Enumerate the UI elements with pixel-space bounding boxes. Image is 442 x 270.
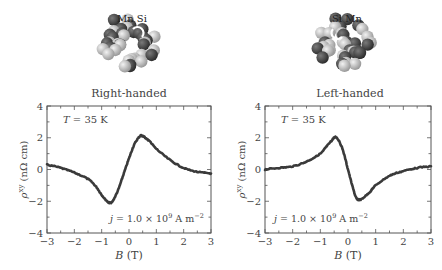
x-tick-label: 1 xyxy=(372,236,378,247)
atom-labels: Mn Si xyxy=(117,13,147,24)
si-atom xyxy=(135,55,147,67)
current-density-annotation: j = 1.0 × 109 A m−2 xyxy=(108,212,204,224)
y-axis-label: ρxy (nΩ cm) xyxy=(17,141,29,200)
si-atom xyxy=(119,60,131,72)
y-tick-label: −4 xyxy=(246,228,261,239)
plot-axes: −3−2−10123−4−2024B (T)ρxy (nΩ cm)T = 35 … xyxy=(17,101,214,263)
si-atom xyxy=(338,60,350,72)
x-tick-label: −2 xyxy=(67,236,82,247)
hall-resistivity-curve xyxy=(47,135,211,203)
x-tick-label: 1 xyxy=(153,236,159,247)
x-tick-label: −1 xyxy=(313,236,328,247)
plot-axes: −3−2−10123−4−2024B (T)ρxy (nΩ cm)T = 35 … xyxy=(235,101,434,263)
current-density-annotation: j = 1.0 × 109 A m−2 xyxy=(272,212,368,224)
x-tick-label: 3 xyxy=(428,236,434,247)
atom-labels: Si Mn xyxy=(332,13,362,24)
panel-left-handed: Si Mn−3−2−10123−4−2024B (T)ρxy (nΩ cm)T … xyxy=(221,0,442,270)
y-tick-label: 4 xyxy=(255,101,261,112)
x-tick-label: 3 xyxy=(208,236,214,247)
y-tick-label: 0 xyxy=(37,164,43,175)
y-tick-label: 0 xyxy=(255,164,261,175)
y-tick-label: −2 xyxy=(28,196,43,207)
x-tick-label: −2 xyxy=(285,236,300,247)
mn-atom xyxy=(316,51,328,63)
hall-resistivity-curve xyxy=(265,137,431,201)
y-tick-label: 2 xyxy=(255,132,261,143)
x-axis-label: B (T) xyxy=(333,249,362,262)
panel-title: Right-handed xyxy=(79,87,179,100)
x-tick-label: 2 xyxy=(400,236,406,247)
panel-right-handed: Mn Si−3−2−10123−4−2024B (T)ρxy (nΩ cm)T … xyxy=(0,0,221,270)
panel-title: Left-handed xyxy=(300,87,400,100)
x-tick-label: 0 xyxy=(126,236,132,247)
x-tick-label: 2 xyxy=(180,236,186,247)
temperature-annotation: T = 35 K xyxy=(281,114,326,125)
x-axis-label: B (T) xyxy=(114,249,143,262)
y-tick-label: −2 xyxy=(246,196,261,207)
x-tick-label: 0 xyxy=(345,236,351,247)
right-handed-figure: Mn Si−3−2−10123−4−2024B (T)ρxy (nΩ cm)T … xyxy=(0,0,221,270)
y-axis-label: ρxy (nΩ cm) xyxy=(235,141,247,200)
mn-atom xyxy=(145,49,157,61)
temperature-annotation: T = 35 K xyxy=(63,114,108,125)
left-handed-figure: Si Mn−3−2−10123−4−2024B (T)ρxy (nΩ cm)T … xyxy=(221,0,442,270)
mn-atom xyxy=(354,47,366,59)
si-atom xyxy=(102,48,114,60)
x-tick-label: −1 xyxy=(94,236,109,247)
y-tick-label: 4 xyxy=(37,101,43,112)
y-tick-label: 2 xyxy=(37,132,43,143)
y-tick-label: −4 xyxy=(28,228,43,239)
si-atom xyxy=(349,58,361,70)
